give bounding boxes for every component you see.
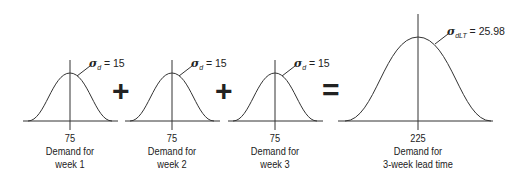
equals-operator: = bbox=[322, 75, 340, 105]
week-2-sigma-label: σd = 15 bbox=[191, 57, 227, 71]
plus-operator-2: + bbox=[215, 76, 233, 106]
week-3-sigma-label: σd = 15 bbox=[294, 57, 330, 71]
week-3-label: 75 Demand for week 3 bbox=[240, 132, 310, 171]
lead-time-label: 225 Demand for 3-week lead time bbox=[374, 132, 462, 171]
lead-time-sigma-label: σdLT = 25.98 bbox=[447, 25, 505, 39]
week-1-label: 75 Demand for week 1 bbox=[35, 132, 105, 171]
week-2-label: 75 Demand for week 2 bbox=[137, 132, 207, 171]
week-1-sigma-label: σd = 15 bbox=[89, 57, 125, 71]
plus-operator-1: + bbox=[112, 76, 130, 106]
